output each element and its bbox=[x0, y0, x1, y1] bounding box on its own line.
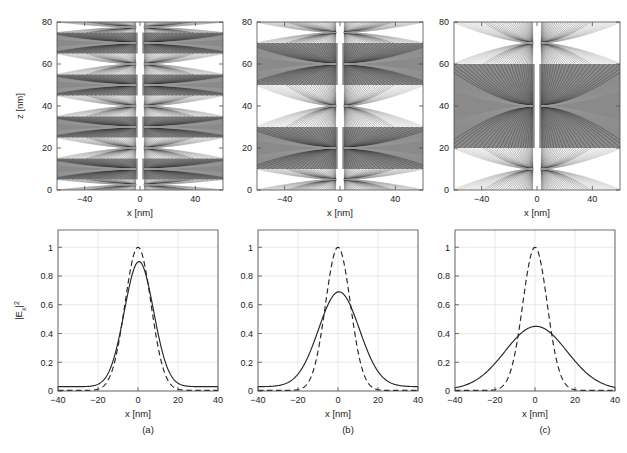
subplot-label: (b) bbox=[323, 424, 373, 435]
y-tick-label: 40 bbox=[42, 101, 52, 111]
y-tick-label: 0.4 bbox=[240, 329, 253, 339]
y-tick-label: 80 bbox=[242, 17, 252, 27]
x-tick-label: −20 bbox=[90, 395, 105, 405]
y-tick-label: 60 bbox=[42, 59, 52, 69]
svg-text:|Ex|2: |Ex|2 bbox=[13, 301, 27, 320]
y-tick-label: 80 bbox=[42, 17, 52, 27]
x-tick-label: 20 bbox=[570, 395, 580, 405]
x-tick-label: −40 bbox=[447, 395, 462, 405]
intensity-chart-b: −40−200204000.20.40.60.81x [nm] bbox=[258, 230, 462, 435]
y-tick-label: 0.6 bbox=[240, 300, 253, 310]
y-tick-label: 0 bbox=[47, 185, 52, 195]
x-tick-label: −40 bbox=[50, 395, 65, 405]
gap-channel bbox=[535, 22, 540, 190]
y-tick-label: 0.8 bbox=[40, 271, 53, 281]
x-tick-label: 20 bbox=[373, 395, 383, 405]
x-tick-label: 20 bbox=[173, 395, 183, 405]
x-tick-label: 40 bbox=[213, 395, 223, 405]
x-tick-label: −40 bbox=[250, 395, 265, 405]
y-tick-label: 20 bbox=[242, 143, 252, 153]
x-tick-label: 40 bbox=[587, 194, 597, 204]
y-axis-label: |Ex|2 bbox=[13, 301, 27, 320]
y-tick-label: 1 bbox=[248, 243, 253, 253]
y-tick-label: 1 bbox=[445, 243, 450, 253]
subplot-label: (c) bbox=[520, 424, 570, 435]
y-tick-label: 60 bbox=[242, 59, 252, 69]
x-tick-label: 0 bbox=[534, 194, 539, 204]
x-tick-label: −20 bbox=[290, 395, 305, 405]
gap-channel bbox=[338, 22, 343, 190]
x-axis-label: x [nm] bbox=[524, 207, 550, 218]
gap-channel bbox=[138, 22, 143, 190]
y-tick-label: 20 bbox=[42, 143, 52, 153]
x-axis-label: x [nm] bbox=[125, 408, 151, 419]
x-tick-label: 0 bbox=[135, 395, 140, 405]
y-tick-label: 0 bbox=[444, 185, 449, 195]
y-tick-label: 0.6 bbox=[40, 300, 53, 310]
x-axis-label: x [nm] bbox=[327, 207, 353, 218]
x-tick-label: 40 bbox=[413, 395, 423, 405]
y-tick-label: 0.2 bbox=[437, 358, 450, 368]
intensity-chart-a: −40−200204000.20.40.60.81x [nm]|Ex|2 bbox=[58, 230, 262, 435]
y-tick-label: 0.6 bbox=[437, 300, 450, 310]
field-panel-b: −40040020406080x [nm] bbox=[258, 22, 463, 230]
y-tick-label: 0.2 bbox=[240, 358, 253, 368]
y-tick-label: 60 bbox=[439, 59, 449, 69]
x-tick-label: −20 bbox=[487, 395, 502, 405]
y-tick-label: 0 bbox=[48, 386, 53, 396]
y-tick-label: 80 bbox=[439, 17, 449, 27]
y-tick-label: 0 bbox=[248, 386, 253, 396]
x-tick-label: 0 bbox=[532, 395, 537, 405]
y-tick-label: 1 bbox=[48, 243, 53, 253]
y-tick-label: 0 bbox=[445, 386, 450, 396]
y-tick-label: 0 bbox=[247, 185, 252, 195]
x-tick-label: −40 bbox=[277, 194, 292, 204]
x-tick-label: 40 bbox=[610, 395, 620, 405]
y-tick-label: 0.4 bbox=[437, 329, 450, 339]
y-tick-label: 40 bbox=[439, 101, 449, 111]
intensity-chart-c: −40−200204000.20.40.60.81x [nm] bbox=[455, 230, 627, 435]
x-tick-label: −40 bbox=[474, 194, 489, 204]
field-panel-c: −40040020406080x [nm] bbox=[455, 22, 627, 230]
y-tick-label: 0.2 bbox=[40, 358, 53, 368]
field-panel-a: −40040020406080x [nm]z [nm] bbox=[58, 22, 263, 230]
x-axis-label: x [nm] bbox=[325, 408, 351, 419]
y-axis-label: z [nm] bbox=[14, 93, 25, 119]
subplot-label-row: (a)(b)(c) bbox=[0, 424, 627, 444]
figure-root: −40040020406080x [nm]z [nm]−400400204060… bbox=[0, 0, 627, 453]
x-axis-label: x [nm] bbox=[522, 408, 548, 419]
x-tick-label: 0 bbox=[335, 395, 340, 405]
x-tick-label: −40 bbox=[77, 194, 92, 204]
y-tick-label: 0.8 bbox=[240, 271, 253, 281]
y-tick-label: 40 bbox=[242, 101, 252, 111]
x-tick-label: 40 bbox=[390, 194, 400, 204]
y-tick-label: 0.8 bbox=[437, 271, 450, 281]
x-tick-label: 40 bbox=[190, 194, 200, 204]
y-tick-label: 0.4 bbox=[40, 329, 53, 339]
x-tick-label: 0 bbox=[337, 194, 342, 204]
subplot-label: (a) bbox=[123, 424, 173, 435]
x-axis-label: x [nm] bbox=[127, 207, 153, 218]
x-tick-label: 0 bbox=[137, 194, 142, 204]
y-tick-label: 20 bbox=[439, 143, 449, 153]
